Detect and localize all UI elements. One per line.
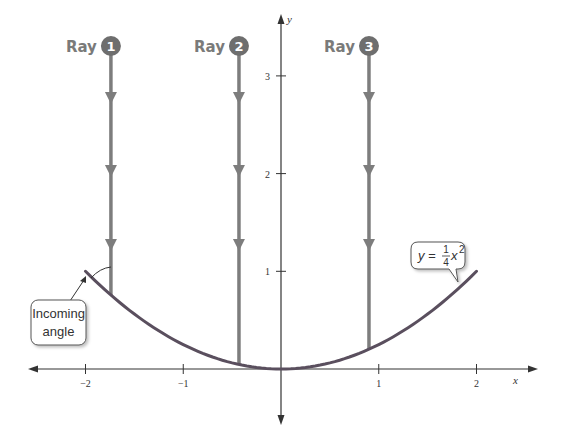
down-arrow-icon	[233, 165, 245, 177]
down-arrow-icon	[105, 92, 117, 104]
callout-line-2: angle	[43, 324, 75, 339]
x-tick-label: −2	[80, 378, 91, 389]
y-axis-label: y	[286, 13, 292, 25]
y-axis-down-arrow-icon	[278, 415, 285, 425]
ray-1: 1Ray	[66, 36, 121, 295]
equation-frac-num: 1	[443, 244, 449, 255]
ray-label: Ray	[194, 38, 225, 56]
ray-number: 3	[364, 39, 373, 54]
incoming-angle-callout: Incoming angle	[31, 300, 86, 345]
rays-group: 1Ray2Ray3Ray	[66, 36, 379, 364]
ray-2: 2Ray	[194, 36, 249, 364]
y-tick-label: 2	[265, 169, 270, 180]
equation-lhs: y =	[417, 248, 436, 263]
equation-callout: y = 1 4 x 2	[411, 242, 465, 282]
x-axis-left-arrow-icon	[28, 366, 38, 373]
y-tick-label: 3	[265, 71, 270, 82]
y-axis-up-arrow-icon	[278, 14, 285, 24]
x-axis-label: x	[512, 374, 518, 386]
angle-arc	[91, 267, 111, 278]
ray-3: 3Ray	[324, 36, 379, 349]
down-arrow-icon	[233, 92, 245, 104]
incoming-angle-marker	[70, 267, 111, 301]
equation-frac-den: 4	[443, 257, 449, 268]
down-arrow-icon	[105, 165, 117, 177]
x-tick-label: 2	[474, 378, 479, 389]
y-axis: 123 y	[265, 13, 292, 425]
x-axis-right-arrow-icon	[528, 366, 538, 373]
down-arrow-icon	[363, 165, 375, 177]
ray-number: 2	[234, 39, 243, 54]
x-tick-label: 1	[376, 378, 381, 389]
down-arrow-icon	[105, 239, 117, 251]
equation-exponent: 2	[459, 244, 465, 255]
ray-label: Ray	[66, 38, 97, 56]
down-arrow-icon	[363, 239, 375, 251]
ray-number: 1	[106, 39, 115, 54]
ray-label: Ray	[324, 38, 355, 56]
down-arrow-icon	[363, 92, 375, 104]
callout-pointer	[70, 280, 84, 301]
x-tick-label: −1	[178, 378, 189, 389]
down-arrow-icon	[233, 239, 245, 251]
parabola-reflection-diagram: −2−112 x 123 y 1Ray2Ray3Ray Incoming ang…	[0, 0, 561, 439]
pointer-arrow-icon	[80, 276, 86, 283]
equation-var: x	[450, 248, 458, 263]
y-tick-label: 1	[265, 266, 270, 277]
callout-line-1: Incoming	[32, 306, 85, 321]
